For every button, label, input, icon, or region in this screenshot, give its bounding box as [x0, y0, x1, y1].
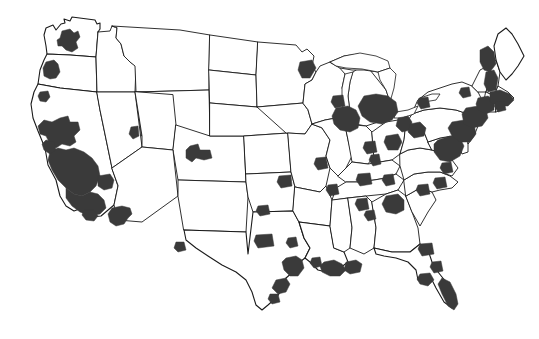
highlight-dallas-fort-worth: [254, 234, 274, 248]
us-map-svg: [0, 0, 539, 339]
highlight-nashville: [356, 173, 372, 186]
highlight-manchester-nashua: [484, 70, 498, 92]
highlight-atlanta-metro: [382, 194, 404, 214]
highlight-gulfport-mobile: [344, 260, 362, 274]
state-kansas: [244, 133, 291, 174]
highlight-las-vegas: [98, 174, 114, 190]
state-south-dakota: [209, 70, 257, 107]
state-arkansas: [293, 186, 332, 226]
highlight-cincinnati-columbus: [384, 134, 402, 150]
us-choropleth-map-figure: [0, 0, 539, 339]
state-north-dakota: [209, 35, 258, 75]
state-new-mexico: [178, 180, 248, 232]
